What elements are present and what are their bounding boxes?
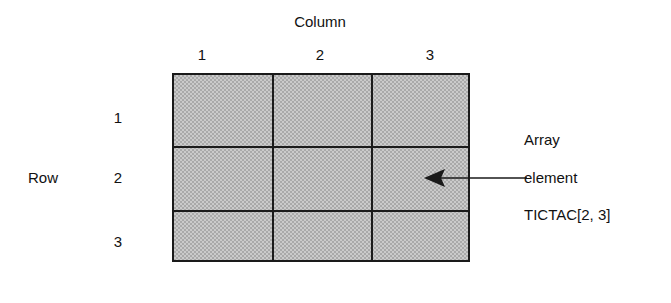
grid-vertical-line-1 [272, 75, 274, 260]
row-header-2: 2 [114, 170, 122, 185]
column-header-1: 1 [198, 47, 206, 62]
row-axis-title: Row [28, 170, 58, 185]
grid-vertical-line-2 [371, 75, 373, 260]
column-axis-title: Column [294, 14, 346, 29]
arrow-pointer-icon [415, 163, 530, 193]
annotation-line-1: Array [524, 132, 560, 147]
annotation-line-3: TICTAC[2, 3] [524, 207, 610, 222]
row-header-3: 3 [114, 234, 122, 249]
column-header-3: 3 [426, 47, 434, 62]
column-header-2: 2 [316, 47, 324, 62]
grid-horizontal-line-1 [174, 146, 468, 148]
grid-horizontal-line-2 [174, 210, 468, 212]
annotation-line-2: element [524, 170, 577, 185]
diagram-canvas: Column 1 2 3 Row 1 2 3 Array element TIC… [0, 0, 671, 303]
row-header-1: 1 [114, 110, 122, 125]
